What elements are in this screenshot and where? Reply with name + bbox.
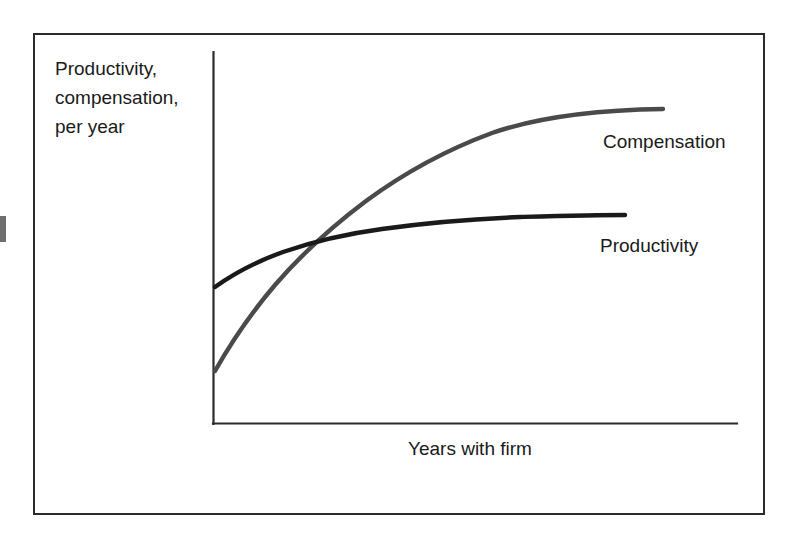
series-label-compensation: Compensation <box>603 131 726 152</box>
series-label-productivity: Productivity <box>600 235 699 256</box>
y-axis-label-line-2: compensation, <box>55 87 179 108</box>
y-axis-label-line-3: per year <box>55 116 125 137</box>
series-line-productivity <box>215 215 625 287</box>
x-axis-label: Years with firm <box>408 438 532 459</box>
series-line-compensation <box>215 109 663 371</box>
figure-root: Productivity, compensation, per year Yea… <box>0 0 797 550</box>
y-axis-label-line-1: Productivity, <box>55 58 157 79</box>
chart-canvas: Productivity, compensation, per year Yea… <box>0 0 797 550</box>
